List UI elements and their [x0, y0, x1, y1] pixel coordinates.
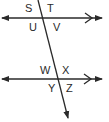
- angle-label-w: W: [40, 64, 51, 76]
- angle-label-u: U: [29, 21, 37, 33]
- angle-label-s: S: [25, 2, 32, 14]
- top-parallel-line: [2, 13, 102, 23]
- angle-label-v: V: [53, 21, 61, 33]
- angle-label-x: X: [62, 64, 70, 76]
- angle-label-t: T: [47, 2, 54, 14]
- angle-label-y: Y: [48, 82, 56, 94]
- angle-label-z: Z: [66, 82, 73, 94]
- diagram-canvas: S T U V W X Y Z: [0, 0, 109, 122]
- parallel-lines-transversal-diagram: S T U V W X Y Z: [0, 0, 109, 122]
